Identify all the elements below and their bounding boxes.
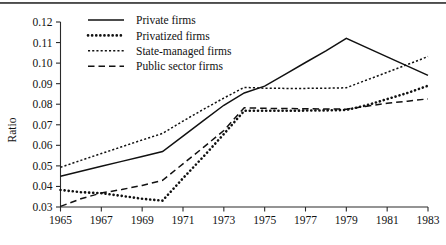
y-axis-tick-labels: 0.030.040.050.060.070.080.090.100.110.12 <box>32 16 52 213</box>
series-line-privatized-firms <box>61 86 429 201</box>
y-tick-label: 0.05 <box>32 160 52 172</box>
x-axis-tick-labels: 1965196719691971197319751977197919811983 <box>49 214 440 226</box>
x-tick-label: 1973 <box>212 214 235 226</box>
y-tick-label: 0.08 <box>32 98 52 110</box>
x-tick-label: 1983 <box>417 214 440 226</box>
x-tick-label: 1969 <box>131 214 154 226</box>
x-tick-label: 1977 <box>294 214 317 226</box>
series-line-public-sector-firms <box>61 99 429 207</box>
legend-privatized-firms-label: Privatized firms <box>136 30 210 42</box>
y-tick-label: 0.09 <box>32 78 52 90</box>
chart-figure: 0.030.040.050.060.070.080.090.100.110.12… <box>0 0 446 245</box>
y-tick-label: 0.10 <box>32 57 52 69</box>
y-tick-label: 0.12 <box>32 16 52 28</box>
x-tick-label: 1981 <box>376 214 399 226</box>
y-tick-label: 0.06 <box>32 139 52 151</box>
x-tick-label: 1979 <box>335 214 358 226</box>
y-tick-label: 0.03 <box>32 201 52 213</box>
legend-public-sector-firms-label: Public sector firms <box>136 60 223 72</box>
x-tick-label: 1967 <box>90 214 113 226</box>
x-tick-label: 1975 <box>253 214 276 226</box>
y-axis-ticks <box>56 22 61 207</box>
legend-state-managed-firms-label: State-managed firms <box>136 45 232 58</box>
y-tick-label: 0.11 <box>33 37 53 49</box>
line-chart: 0.030.040.050.060.070.080.090.100.110.12… <box>0 0 446 245</box>
y-axis-title: Ratio <box>6 117 18 142</box>
y-tick-label: 0.04 <box>32 180 52 192</box>
x-tick-label: 1965 <box>49 214 72 226</box>
y-tick-label: 0.07 <box>32 119 52 131</box>
x-axis-ticks <box>61 207 429 212</box>
series-line-state-managed-firms <box>61 57 429 168</box>
chart-series-group <box>61 38 429 206</box>
x-tick-label: 1971 <box>172 214 195 226</box>
chart-legend: Private firmsPrivatized firmsState-manag… <box>88 14 232 72</box>
legend-private-firms-label: Private firms <box>136 14 196 26</box>
